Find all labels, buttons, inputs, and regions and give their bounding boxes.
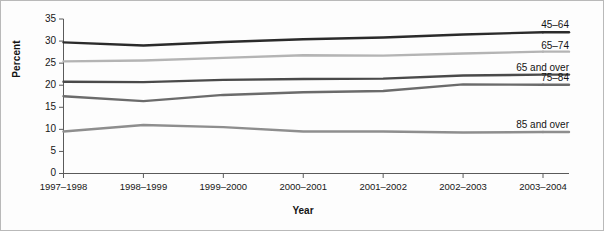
series-line xyxy=(64,84,544,101)
y-tick-label: 15 xyxy=(30,101,56,112)
y-tick-label: 20 xyxy=(30,79,56,90)
y-tick-label: 5 xyxy=(30,145,56,156)
axis-lines xyxy=(64,19,570,174)
x-tick-label: 2001–2002 xyxy=(359,181,407,192)
x-tick-label: 1999–2000 xyxy=(200,181,248,192)
x-tick-label: 1998–1999 xyxy=(120,181,168,192)
x-tick-label: 1997–1998 xyxy=(40,181,88,192)
y-tick-label: 25 xyxy=(30,57,56,68)
y-tick-label: 35 xyxy=(30,13,56,24)
data-series-lines xyxy=(64,32,570,132)
x-axis-ticks xyxy=(64,174,544,179)
series-label: 75–84 xyxy=(541,72,569,83)
chart-figure: Percent Year 05101520253035 1997–1998199… xyxy=(0,0,604,231)
series-line xyxy=(64,75,544,83)
series-line xyxy=(64,125,544,133)
series-label: 65–74 xyxy=(541,40,569,51)
series-line xyxy=(64,32,544,45)
x-tick-label: 2002–2003 xyxy=(439,181,487,192)
line-chart-plot xyxy=(1,1,604,231)
y-tick-label: 30 xyxy=(30,35,56,46)
series-label: 45–64 xyxy=(541,19,569,30)
x-tick-label: 2003–2004 xyxy=(519,181,567,192)
series-line xyxy=(64,52,544,62)
x-tick-label: 2000–2001 xyxy=(279,181,327,192)
y-tick-label: 10 xyxy=(30,123,56,134)
y-tick-label: 0 xyxy=(30,167,56,178)
series-label: 85 and over xyxy=(516,119,569,130)
